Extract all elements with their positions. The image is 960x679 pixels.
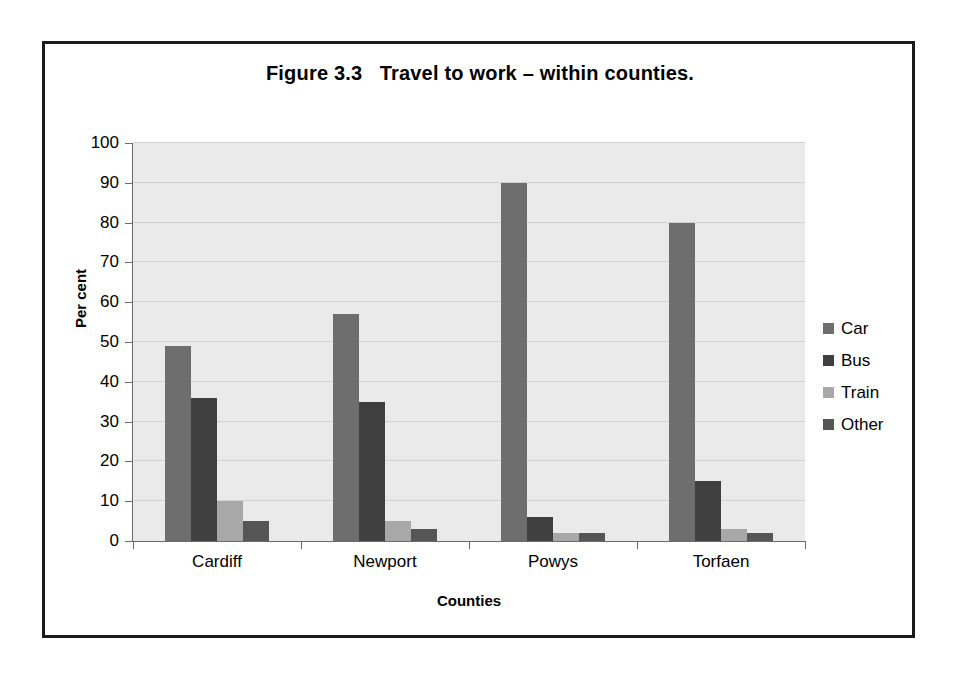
y-tick-label: 10 — [19, 491, 119, 511]
x-tick-mark — [637, 541, 638, 549]
y-tick-label: 50 — [19, 332, 119, 352]
legend-swatch-car — [823, 323, 834, 334]
bar-train-newport — [385, 521, 411, 541]
y-tick-mark — [125, 501, 132, 502]
legend-swatch-train — [823, 387, 834, 398]
gridline — [133, 460, 805, 461]
y-tick-label: 20 — [19, 451, 119, 471]
figure-root: Figure 3.3 Travel to work – within count… — [0, 0, 960, 679]
bar-car-powys — [501, 183, 527, 541]
x-tick-label-powys: Powys — [469, 552, 637, 572]
gridline — [133, 341, 805, 342]
bar-car-torfaen — [669, 223, 695, 541]
legend-item-train: Train — [823, 376, 903, 408]
bar-bus-newport — [359, 402, 385, 541]
y-tick-mark — [125, 143, 132, 144]
gridline — [133, 421, 805, 422]
bar-car-cardiff — [165, 346, 191, 541]
y-tick-mark — [125, 262, 132, 263]
y-tick-mark — [125, 342, 132, 343]
y-tick-label: 30 — [19, 412, 119, 432]
legend-item-other: Other — [823, 408, 903, 440]
bar-bus-cardiff — [191, 398, 217, 541]
y-tick-mark — [125, 183, 132, 184]
bar-bus-powys — [527, 517, 553, 541]
y-tick-label: 0 — [19, 531, 119, 551]
legend-swatch-bus — [823, 355, 834, 366]
legend-label-other: Other — [841, 416, 884, 433]
x-tick-mark — [469, 541, 470, 549]
x-tick-mark — [301, 541, 302, 549]
legend-label-car: Car — [841, 320, 868, 337]
legend-label-train: Train — [841, 384, 879, 401]
gridline — [133, 142, 805, 143]
x-tick-label-newport: Newport — [301, 552, 469, 572]
legend-label-bus: Bus — [841, 352, 870, 369]
bar-bus-torfaen — [695, 481, 721, 541]
bar-train-torfaen — [721, 529, 747, 541]
x-tick-label-cardiff: Cardiff — [133, 552, 301, 572]
y-tick-mark — [125, 382, 132, 383]
x-axis-title: Counties — [133, 592, 805, 609]
bar-car-newport — [333, 314, 359, 541]
y-tick-mark — [125, 541, 132, 542]
chart-title: Figure 3.3 Travel to work – within count… — [0, 62, 960, 85]
x-tick-mark — [133, 541, 134, 549]
y-tick-label: 40 — [19, 372, 119, 392]
legend-item-bus: Bus — [823, 344, 903, 376]
y-tick-mark — [125, 461, 132, 462]
gridline — [133, 261, 805, 262]
y-tick-mark — [125, 223, 132, 224]
y-axis-line — [132, 143, 133, 542]
legend-item-car: Car — [823, 312, 903, 344]
y-tick-label: 90 — [19, 173, 119, 193]
y-tick-label: 100 — [19, 133, 119, 153]
y-tick-label: 70 — [19, 252, 119, 272]
gridline — [133, 222, 805, 223]
bar-other-cardiff — [243, 521, 269, 541]
bar-train-powys — [553, 533, 579, 541]
x-tick-label-torfaen: Torfaen — [637, 552, 805, 572]
gridline — [133, 301, 805, 302]
bar-other-powys — [579, 533, 605, 541]
plot-area — [133, 143, 805, 541]
bar-other-torfaen — [747, 533, 773, 541]
y-tick-mark — [125, 422, 132, 423]
bar-other-newport — [411, 529, 437, 541]
y-tick-mark — [125, 302, 132, 303]
gridline — [133, 182, 805, 183]
y-tick-label: 80 — [19, 213, 119, 233]
x-tick-mark — [805, 541, 806, 549]
bar-train-cardiff — [217, 501, 243, 541]
chart-legend: CarBusTrainOther — [823, 312, 903, 440]
legend-swatch-other — [823, 419, 834, 430]
y-tick-label: 60 — [19, 292, 119, 312]
gridline — [133, 381, 805, 382]
